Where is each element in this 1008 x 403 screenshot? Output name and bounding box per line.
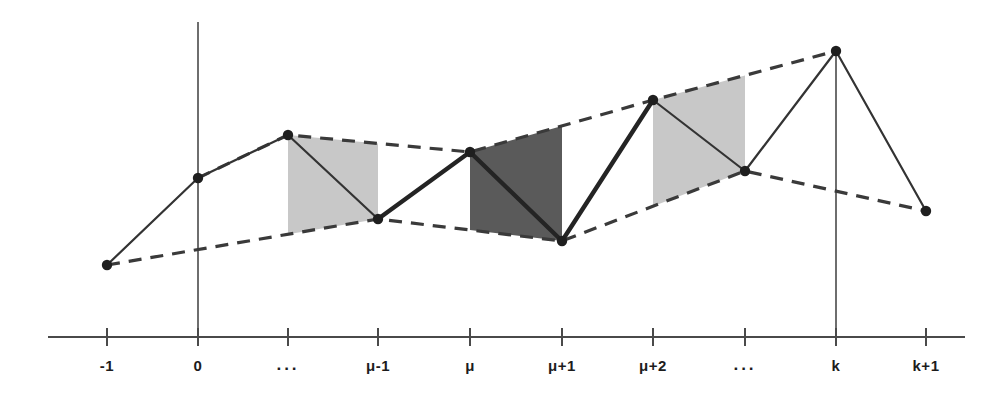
- vertex-marker-μ+2: [648, 95, 658, 105]
- plot-canvas: [0, 0, 1008, 403]
- vertex-marker-···: [283, 130, 293, 140]
- emphasised-segment-3-4: [378, 152, 470, 219]
- x-tick-label-7: ···: [734, 359, 757, 379]
- x-tick-label-8: k: [832, 357, 841, 374]
- vertex-marker-μ: [465, 147, 475, 157]
- vertex-marker-k: [831, 46, 841, 56]
- vertex-marker--1: [102, 260, 112, 270]
- diagram-figure: -10···μ-1μμ+1μ+2···kk+1: [0, 0, 1008, 403]
- x-tick-label-6: μ+2: [639, 357, 667, 374]
- x-tick-label-1: 0: [194, 357, 203, 374]
- band-light-left: [288, 135, 378, 234]
- shaded-bands-layer: [288, 75, 745, 241]
- vertex-marker-μ+1: [557, 236, 567, 246]
- x-tick-label-4: μ: [465, 357, 475, 374]
- vertex-marker-k+1: [921, 206, 931, 216]
- vertex-marker-···: [740, 166, 750, 176]
- x-tick-label-2: ···: [277, 359, 300, 379]
- x-tick-label-9: k+1: [913, 357, 940, 374]
- x-tick-label-5: μ+1: [548, 357, 576, 374]
- band-dark-middle: [470, 126, 562, 241]
- vertex-marker-0: [193, 173, 203, 183]
- emphasised-segment-5-6: [562, 100, 653, 241]
- vertex-marker-μ-1: [373, 214, 383, 224]
- x-tick-label-3: μ-1: [366, 357, 390, 374]
- x-tick-label-0: -1: [100, 357, 114, 374]
